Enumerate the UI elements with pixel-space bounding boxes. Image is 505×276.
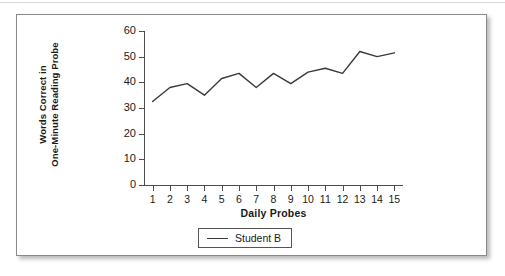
x-tick-label-15: 15 <box>384 193 404 205</box>
page-top-rule <box>0 2 505 3</box>
y-tick-label-50: 50 <box>124 50 136 62</box>
y-tick-label-0: 0 <box>130 178 136 190</box>
x-axis-title: Daily Probes <box>144 207 403 219</box>
y-tick-label-40: 40 <box>124 75 136 87</box>
y-tick-label-20: 20 <box>124 127 136 139</box>
y-tick-label-60: 60 <box>124 24 136 36</box>
plot-area: 0102030405060 123456789101112131415 <box>144 31 402 185</box>
chart-legend: Student B <box>198 228 292 248</box>
legend-line-swatch <box>207 238 228 239</box>
figure-frame: Words Correct in One-Minute Reading Prob… <box>16 14 487 256</box>
y-axis-title: Words Correct in One-Minute Reading Prob… <box>37 20 60 190</box>
y-axis-title-line1: Words Correct in <box>37 65 48 144</box>
y-tick-label-30: 30 <box>124 101 136 113</box>
legend-label-student-b: Student B <box>235 232 281 244</box>
figure-page: Words Correct in One-Minute Reading Prob… <box>0 0 505 276</box>
line-chart: Words Correct in One-Minute Reading Prob… <box>17 15 488 257</box>
y-tick-label-10: 10 <box>124 152 136 164</box>
y-axis-title-line2: One-Minute Reading Probe <box>48 20 60 190</box>
series-student-b-line <box>144 31 403 187</box>
